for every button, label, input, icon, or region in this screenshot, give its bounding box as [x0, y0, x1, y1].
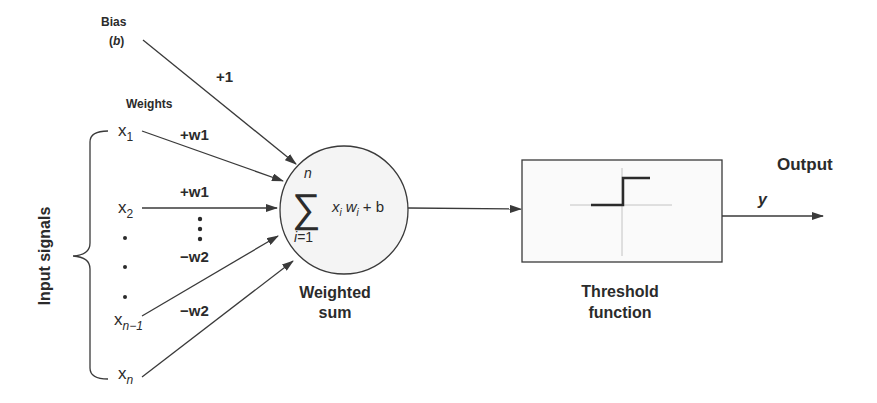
input-brace — [73, 131, 108, 379]
threshold-caption-1: Threshold — [581, 283, 658, 300]
arrow-xn-minus-1 — [142, 236, 278, 316]
weight-label-x1: +w1 — [180, 126, 209, 143]
sigma-symbol: ∑ — [292, 186, 321, 231]
arrow-x1 — [142, 131, 283, 181]
bias-label: Bias (b) — [101, 15, 127, 48]
svg-text:xn: xn — [118, 364, 134, 387]
weight-label-x2: +w1 — [180, 183, 209, 200]
sum-upper-limit: n — [304, 165, 312, 181]
input-x2: x2 — [118, 198, 134, 221]
threshold-caption-2: function — [588, 304, 651, 321]
input-signals-label: Input signals — [36, 207, 53, 306]
weighted-sum-caption-1: Weighted — [299, 284, 371, 301]
bias-text: Bias — [101, 15, 127, 29]
weights-heading: Weights — [126, 97, 173, 111]
perceptron-diagram: Bias (b) +1 Weights Input signals x1 +w1… — [0, 0, 877, 403]
weights-ellipsis — [198, 217, 202, 241]
sum-lower-limit: i=1 — [294, 229, 313, 245]
svg-text:xn−1: xn−1 — [114, 310, 143, 333]
arrow-sum-to-threshold — [408, 208, 521, 209]
svg-text:x2: x2 — [118, 198, 134, 221]
input-xn-minus-1: xn−1 — [114, 310, 143, 333]
weight-label-xn: −w2 — [180, 302, 209, 319]
weighted-sum-caption-2: sum — [319, 304, 352, 321]
output-label: Output — [777, 155, 833, 174]
input-xn: xn — [118, 364, 134, 387]
arrow-xn — [142, 261, 293, 377]
bias-symbol: (b) — [109, 34, 124, 48]
bias-weight-label: +1 — [216, 68, 233, 85]
weight-label-xn-1: −w2 — [180, 248, 209, 265]
output-symbol: y — [757, 191, 768, 208]
input-x1: x1 — [118, 121, 134, 144]
svg-text:x1: x1 — [118, 121, 134, 144]
inputs-ellipsis — [123, 236, 127, 299]
